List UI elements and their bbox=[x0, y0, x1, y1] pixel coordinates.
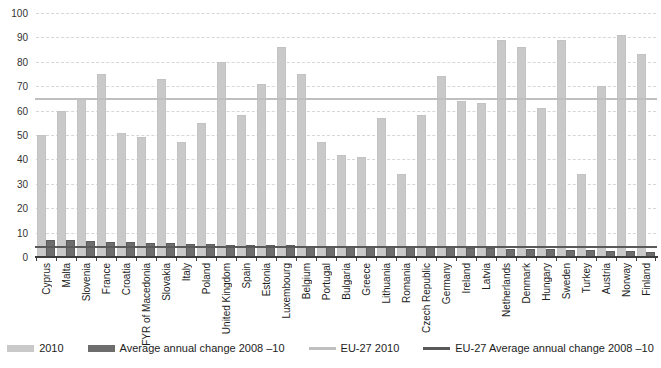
x-axis-label: Hungary bbox=[536, 263, 556, 339]
x-axis-label: Cyprus bbox=[36, 263, 56, 339]
bar-2010 bbox=[537, 108, 546, 257]
x-axis-tick bbox=[396, 257, 397, 261]
x-axis-tick bbox=[476, 257, 477, 261]
bar-2010 bbox=[117, 133, 126, 257]
bar-2010 bbox=[177, 142, 186, 257]
y-axis-tick-label: 10 bbox=[0, 228, 28, 239]
y-axis-tick-label: 50 bbox=[0, 130, 28, 141]
bar-group bbox=[436, 13, 456, 257]
x-axis-label: Lithuania bbox=[376, 263, 396, 339]
bar-2010 bbox=[317, 142, 326, 257]
bar-2010 bbox=[297, 74, 306, 257]
x-axis-label-text: Greece bbox=[361, 263, 372, 296]
bar-group bbox=[636, 13, 656, 257]
x-axis-tick bbox=[616, 257, 617, 261]
x-axis-label-text: Ireland bbox=[461, 263, 472, 294]
x-axis-tick bbox=[136, 257, 137, 261]
bar-2010 bbox=[157, 79, 166, 257]
x-axis-label-text: Poland bbox=[201, 263, 212, 294]
x-axis-label-text: Hungary bbox=[541, 263, 552, 301]
x-axis-label: France bbox=[96, 263, 116, 339]
bar-2010 bbox=[397, 174, 406, 257]
bar-2010 bbox=[637, 54, 646, 257]
y-axis-tick-label: 40 bbox=[0, 154, 28, 165]
x-axis-label: Czech Republic bbox=[416, 263, 436, 339]
bar-avg-annual-change bbox=[166, 243, 175, 257]
bar-2010 bbox=[477, 103, 486, 257]
x-axis-tick bbox=[336, 257, 337, 261]
x-axis-label: Ireland bbox=[456, 263, 476, 339]
x-axis-label: Netherlands bbox=[496, 263, 516, 339]
bar-2010 bbox=[617, 35, 626, 257]
y-axis-tick-label: 60 bbox=[0, 106, 28, 117]
x-axis-tick bbox=[496, 257, 497, 261]
bar-group bbox=[136, 13, 156, 257]
bar-group bbox=[336, 13, 356, 257]
x-axis-label-text: Czech Republic bbox=[421, 263, 432, 333]
bar-2010 bbox=[237, 115, 246, 257]
y-axis-tick-label: 30 bbox=[0, 179, 28, 190]
bar-group bbox=[96, 13, 116, 257]
x-axis-tick bbox=[116, 257, 117, 261]
bar-2010 bbox=[137, 137, 146, 257]
legend-item: 2010 bbox=[7, 342, 63, 354]
legend-item: EU-27 Average annual change 2008 –10 bbox=[423, 342, 654, 354]
bar-2010 bbox=[57, 111, 66, 257]
x-axis-label: Spain bbox=[236, 263, 256, 339]
bar-2010 bbox=[597, 86, 606, 257]
bar-2010 bbox=[417, 115, 426, 257]
y-axis-tick-label: 0 bbox=[0, 252, 28, 263]
x-axis-label: Turkey bbox=[576, 263, 596, 339]
bar-group bbox=[196, 13, 216, 257]
x-axis-label: Finland bbox=[636, 263, 656, 339]
x-axis-label: Denmark bbox=[516, 263, 536, 339]
bar-2010 bbox=[337, 155, 346, 257]
bar-group bbox=[256, 13, 276, 257]
bar-avg-annual-change bbox=[106, 242, 115, 257]
bar-group bbox=[216, 13, 236, 257]
x-axis-label-text: Germany bbox=[441, 263, 452, 304]
x-axis-label-text: Austria bbox=[601, 263, 612, 294]
bar-group bbox=[316, 13, 336, 257]
x-axis-tick bbox=[636, 257, 637, 261]
x-axis-label: Austria bbox=[596, 263, 616, 339]
x-axis-label-text: Netherlands bbox=[501, 263, 512, 317]
x-axis-label-text: Belgium bbox=[301, 263, 312, 299]
bar-2010 bbox=[577, 174, 586, 257]
bar-group bbox=[176, 13, 196, 257]
x-axis-label-text: United Kingdom bbox=[221, 263, 232, 334]
legend-label: EU-27 Average annual change 2008 –10 bbox=[455, 342, 654, 354]
x-axis-label: Italy bbox=[176, 263, 196, 339]
x-axis-tick bbox=[276, 257, 277, 261]
x-axis-label: Romania bbox=[396, 263, 416, 339]
x-axis-tick bbox=[436, 257, 437, 261]
legend-line-swatch bbox=[423, 347, 450, 350]
bar-group bbox=[516, 13, 536, 257]
x-axis-tick bbox=[536, 257, 537, 261]
legend-label: Average annual change 2008 –10 bbox=[120, 342, 285, 354]
bar-group bbox=[296, 13, 316, 257]
x-axis-label-text: Portugal bbox=[321, 263, 332, 300]
bar-group bbox=[376, 13, 396, 257]
x-axis-label-text: Latvia bbox=[481, 263, 492, 290]
plot-area bbox=[36, 13, 656, 257]
x-axis-tick bbox=[216, 257, 217, 261]
bar-2010 bbox=[217, 62, 226, 257]
bar-2010 bbox=[197, 123, 206, 257]
x-axis-label-text: Spain bbox=[241, 263, 252, 289]
bar-2010 bbox=[257, 84, 266, 257]
x-axis-label-text: Italy bbox=[181, 263, 192, 281]
x-axis-label-text: Luxembourg bbox=[281, 263, 292, 319]
bar-2010 bbox=[357, 157, 366, 257]
x-axis-label-text: Turkey bbox=[581, 263, 592, 293]
x-axis-label: Slovenia bbox=[76, 263, 96, 339]
x-axis-label: Greece bbox=[356, 263, 376, 339]
x-axis-label: FYR of Macedonia bbox=[136, 263, 156, 339]
bar-2010 bbox=[517, 47, 526, 257]
bar-2010 bbox=[77, 98, 86, 257]
x-axis-tick bbox=[416, 257, 417, 261]
x-axis-label: Bulgaria bbox=[336, 263, 356, 339]
bar-group bbox=[556, 13, 576, 257]
legend-bar-swatch bbox=[7, 345, 34, 352]
x-axis-label: Latvia bbox=[476, 263, 496, 339]
